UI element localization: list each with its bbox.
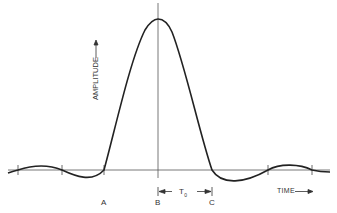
pulse-diagram	[0, 0, 337, 213]
pulse-waveform	[8, 19, 330, 181]
amplitude-arrow-icon	[94, 40, 98, 58]
amplitude-label: AMPLITUDE	[91, 57, 100, 100]
point-a-label: A	[101, 198, 107, 207]
time-arrow-icon	[295, 190, 313, 194]
interval-subscript: 0	[184, 192, 187, 198]
time-label: TIME	[277, 187, 295, 194]
point-c-label: C	[209, 198, 215, 207]
point-b-label: B	[155, 198, 161, 207]
interval-label: T0	[179, 187, 187, 198]
